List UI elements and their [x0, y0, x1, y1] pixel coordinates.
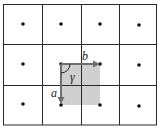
lattice-point — [21, 62, 25, 66]
angle-gamma-label: γ — [70, 70, 75, 84]
lattice-diagram: b a γ — [0, 0, 158, 131]
lattice-point — [137, 104, 141, 108]
lattice-point — [137, 23, 141, 27]
lattice-point — [21, 102, 25, 106]
lattice-point — [137, 63, 141, 67]
lattice-point — [59, 22, 63, 26]
unit-cell-shading — [61, 64, 100, 105]
lattice-point — [98, 103, 102, 107]
vector-b-label: b — [82, 49, 88, 63]
lattice-point — [21, 22, 25, 26]
vector-a-label: a — [51, 86, 57, 100]
lattice-point — [98, 22, 102, 26]
